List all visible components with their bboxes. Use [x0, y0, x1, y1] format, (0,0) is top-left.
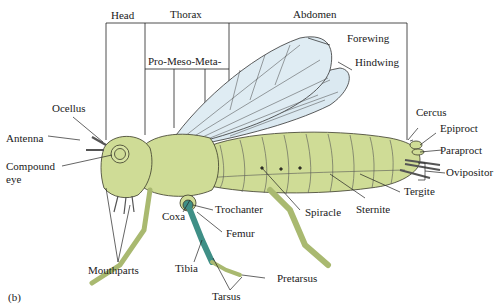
label-compound-eye-line2: eye [6, 173, 21, 185]
label-forewing: Forewing [347, 32, 389, 44]
label-ocellus: Ocellus [52, 102, 86, 114]
label-cercus: Cercus [416, 106, 447, 118]
label-coxa: Coxa [162, 210, 185, 222]
thorax-segments-label: Pro-Meso-Meta- [148, 55, 221, 67]
insect-anatomy-diagram [0, 0, 498, 304]
region-label-abdomen: Abdomen [293, 8, 336, 20]
panel-label: (b) [8, 291, 21, 303]
label-tergite: Tergite [404, 185, 435, 197]
label-hindwing: Hindwing [355, 56, 399, 68]
label-ovipositor: Ovipositor [446, 166, 493, 178]
label-epiproct: Epiproct [440, 122, 478, 134]
region-label-thorax: Thorax [170, 8, 202, 20]
label-sternite: Sternite [356, 203, 390, 215]
label-antenna: Antenna [6, 132, 43, 144]
label-femur: Femur [226, 227, 255, 239]
label-pretarsus: Pretarsus [277, 272, 317, 284]
label-trochanter: Trochanter [215, 203, 263, 215]
label-compound-eye-line1: Compound [6, 160, 55, 172]
label-spiracle: Spiracle [305, 206, 341, 218]
label-tibia: Tibia [175, 262, 198, 274]
label-mouthparts: Mouthparts [88, 264, 139, 276]
label-tarsus: Tarsus [212, 290, 241, 302]
label-paraproct: Paraproct [440, 144, 482, 156]
region-label-head: Head [111, 9, 134, 21]
